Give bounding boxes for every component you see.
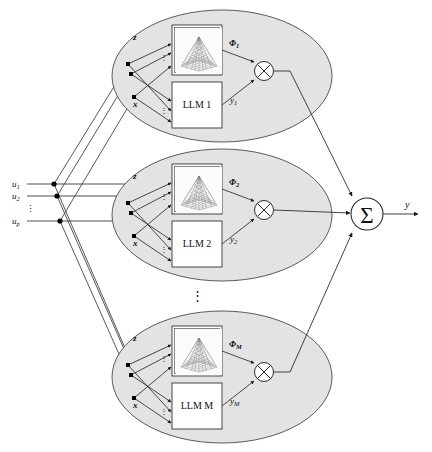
expert-2-gauss-ellipsis: ⋮ (160, 192, 168, 201)
output-label-y: y (404, 199, 410, 210)
expert-M-gaussian-box[interactable] (172, 326, 222, 376)
summation-symbol: Σ (360, 203, 373, 228)
expert-M-product-node[interactable] (255, 363, 274, 382)
expert-M-input-label-x: x (132, 400, 138, 410)
expert-module-M[interactable]: ⋮ ⋮ z x LLM M ΦM yM (112, 311, 332, 443)
expert-1-input-label-z: z (132, 32, 137, 42)
expert-2-llm-ellipsis: ⋮ (160, 245, 168, 254)
expert-1-gauss-ellipsis: ⋮ (160, 53, 168, 62)
expert-2-llm-box[interactable]: LLM 2 (172, 221, 222, 267)
expert-1-llm-label: LLM 1 (183, 99, 212, 110)
expert-2-product-node[interactable] (255, 201, 274, 220)
summation-node[interactable]: Σ (351, 198, 383, 230)
gaussian-surface-plot-icon (176, 28, 222, 74)
expert-M-llm-box[interactable]: LLM M (172, 383, 222, 429)
expert-M-gauss-ellipsis: ⋮ (160, 354, 168, 363)
expert-M-llm-label: LLM M (181, 400, 214, 411)
expert-1-gaussian-box[interactable] (172, 25, 222, 75)
expert-2-gaussian-box[interactable] (172, 164, 222, 214)
expert-module-1[interactable]: ⋮ ⋮ z x LLM 1 Φ1 y1 (112, 10, 332, 142)
block-diagram: u1 u2 up ⋮ ⋮ ⋮ z x (0, 0, 432, 452)
expert-2-input-label-z: z (132, 171, 137, 181)
expert-1-llm-ellipsis: ⋮ (160, 106, 168, 115)
input-label-u2: u2 (12, 191, 21, 202)
expert-stack-ellipsis: ⋮ (191, 288, 204, 303)
expert-2-input-label-x: x (132, 238, 138, 248)
expert-2-llm-label: LLM 2 (183, 238, 212, 249)
expert-M-llm-ellipsis: ⋮ (160, 407, 168, 416)
expert-1-product-node[interactable] (255, 62, 274, 81)
gaussian-surface-plot-icon (176, 167, 222, 213)
expert-M-input-label-z: z (132, 333, 137, 343)
input-vertical-ellipsis: ⋮ (26, 204, 35, 214)
expert-1-llm-box[interactable]: LLM 1 (172, 82, 222, 128)
figure-canvas: u1 u2 up ⋮ ⋮ ⋮ z x (0, 0, 432, 452)
gaussian-surface-plot-icon (176, 329, 222, 375)
input-label-u1: u1 (12, 179, 20, 190)
input-label-up: up (12, 216, 21, 227)
expert-module-2[interactable]: ⋮ ⋮ z x LLM 2 Φ2 y2 (112, 149, 332, 281)
input-junction-dots (51, 181, 62, 223)
expert-1-input-label-x: x (132, 99, 138, 109)
